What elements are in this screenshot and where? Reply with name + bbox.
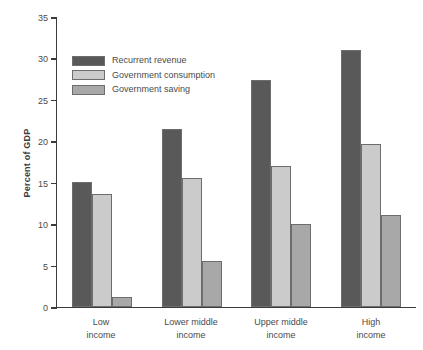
bar [381, 215, 401, 307]
legend-swatch [72, 70, 105, 80]
legend-swatch [72, 85, 105, 95]
legend-label: Government saving [112, 84, 190, 95]
bar [271, 166, 291, 307]
bar-chart: Percent of GDP 35302520151050 LowincomeL… [0, 0, 423, 350]
x-axis-label-line1: Low [93, 317, 110, 327]
y-axis-tick: 25 [23, 95, 57, 107]
x-axis-label: Lower middleincome [146, 312, 236, 350]
bar [361, 144, 381, 307]
y-axis-tick: 20 [23, 136, 57, 148]
y-axis-tick: 5 [23, 261, 57, 273]
bar [291, 224, 311, 307]
x-axis-label: Lowincome [56, 312, 146, 350]
y-axis-tick-label: 15 [24, 178, 48, 190]
x-axis-label-line1: Lower middle [164, 317, 218, 327]
bar [251, 80, 271, 307]
x-axis-label-line2: income [326, 329, 416, 342]
y-axis-tick-label: 10 [24, 219, 48, 231]
legend-label: Government consumption [112, 70, 215, 81]
y-axis-tick: 30 [23, 53, 57, 65]
y-axis-tick-label: 0 [24, 302, 48, 314]
x-axis-label-line1: Upper middle [254, 317, 308, 327]
bar [92, 194, 112, 308]
bar [182, 178, 202, 307]
y-axis-tick-label: 35 [24, 12, 48, 24]
y-axis-tick-label: 30 [24, 53, 48, 65]
y-axis-tick: 0 [23, 302, 57, 314]
y-axis-tick: 35 [23, 12, 57, 24]
y-axis-tick: 10 [23, 219, 57, 231]
x-axis-label-line2: income [56, 329, 146, 342]
x-axis-label-line1: High [362, 317, 381, 327]
bar [341, 50, 361, 307]
legend-item: Government saving [72, 84, 215, 95]
x-axis-labels: LowincomeLower middleincomeUpper middlei… [56, 312, 416, 350]
x-axis-label: Highincome [326, 312, 416, 350]
legend-label: Recurrent revenue [112, 55, 187, 66]
y-axis-tick-mark [51, 307, 57, 309]
bar-group [326, 18, 416, 307]
legend-item: Government consumption [72, 70, 215, 81]
y-axis-tick-label: 25 [24, 95, 48, 107]
legend-swatch [72, 56, 105, 66]
y-axis-tick-label: 20 [24, 136, 48, 148]
legend: Recurrent revenueGovernment consumptionG… [72, 55, 215, 95]
bar [162, 129, 182, 307]
legend-item: Recurrent revenue [72, 55, 215, 66]
x-axis-label-line2: income [146, 329, 236, 342]
bar [202, 261, 222, 307]
x-axis-label: Upper middleincome [236, 312, 326, 350]
y-axis-tick: 15 [23, 178, 57, 190]
y-axis-tick-label: 5 [24, 261, 48, 273]
x-axis-label-line2: income [236, 329, 326, 342]
bar [112, 297, 132, 307]
bar-group [237, 18, 327, 307]
bar [72, 182, 92, 307]
